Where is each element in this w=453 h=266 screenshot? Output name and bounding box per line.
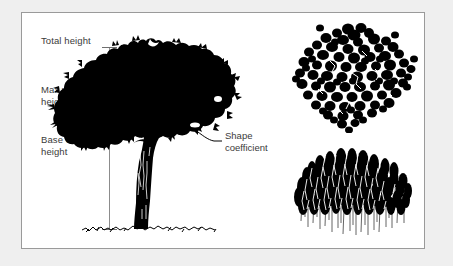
ground-grass-line bbox=[82, 226, 216, 232]
tree-crown-silhouette bbox=[47, 35, 242, 151]
single-tree-profile: Total height Max width height Base crown… bbox=[22, 13, 287, 248]
shape-coefficient-leader bbox=[194, 129, 222, 141]
tree-silhouette-svg bbox=[22, 13, 287, 248]
crown-gap-1 bbox=[214, 96, 222, 102]
stand-perspective-view bbox=[290, 143, 420, 243]
canopy-plan-view bbox=[290, 21, 420, 133]
crown-gap-3 bbox=[172, 139, 192, 144]
canopy-plan-svg bbox=[290, 21, 420, 133]
crown-path bbox=[53, 38, 235, 149]
stand-crowns bbox=[294, 148, 412, 215]
figure-root: Total height Max width height Base crown… bbox=[0, 0, 453, 266]
figure-panel: Total height Max width height Base crown… bbox=[21, 12, 425, 249]
stand-perspective-svg bbox=[290, 143, 420, 243]
crown-gap-2 bbox=[190, 123, 200, 128]
canopy-crowns bbox=[292, 23, 418, 133]
